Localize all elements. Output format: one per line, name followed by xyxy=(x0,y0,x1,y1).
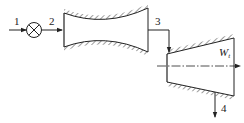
state-4-label: 4 xyxy=(221,102,227,114)
flow-diagram: 1 2 3 Wt 4 xyxy=(0,0,244,123)
work-label: Wt xyxy=(219,46,231,60)
state-3-label: 3 xyxy=(155,15,161,27)
stream-3 xyxy=(148,30,169,52)
turbine-icon xyxy=(167,34,234,100)
nozzle-icon xyxy=(64,4,148,56)
state-2-label: 2 xyxy=(49,15,55,27)
valve-icon xyxy=(27,23,42,38)
state-1-label: 1 xyxy=(14,15,20,27)
